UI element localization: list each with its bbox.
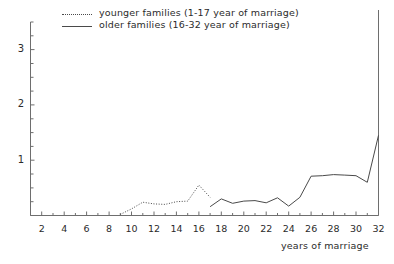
x-tick-label: 4 xyxy=(53,223,75,234)
x-tick-label: 2 xyxy=(31,223,53,234)
x-tick-label: 18 xyxy=(210,223,232,234)
legend-item-younger-families: younger families (1-17 year of marriage) xyxy=(62,7,362,19)
x-tick-label: 6 xyxy=(76,223,98,234)
y-tick-marks xyxy=(31,22,35,216)
x-tick-label: 24 xyxy=(278,223,300,234)
chart-figure: younger families (1-17 year of marriage)… xyxy=(0,0,394,264)
x-tick-label: 22 xyxy=(255,223,277,234)
legend-swatch-solid-icon xyxy=(62,26,92,27)
x-tick-label: 30 xyxy=(345,223,367,234)
x-tick-label: 14 xyxy=(165,223,187,234)
legend-swatch-dotted-icon xyxy=(62,14,92,15)
legend-label-younger-families: younger families (1-17 year of marriage) xyxy=(99,7,299,19)
x-axis-title: years of marriage xyxy=(281,240,369,251)
x-tick-marks xyxy=(31,212,379,216)
x-tick-label: 16 xyxy=(188,223,210,234)
x-tick-label: 28 xyxy=(323,223,345,234)
x-tick-label: 8 xyxy=(98,223,120,234)
x-tick-label: 10 xyxy=(121,223,143,234)
y-tick-label: 1 xyxy=(8,154,24,165)
x-tick-label: 20 xyxy=(233,223,255,234)
legend-label-older-families: older families (16-32 year of marriage) xyxy=(99,19,290,31)
chart-legend: younger families (1-17 year of marriage)… xyxy=(62,7,362,31)
series-line-younger-families xyxy=(120,185,210,214)
legend-item-older-families: older families (16-32 year of marriage) xyxy=(62,19,362,31)
x-tick-label: 12 xyxy=(143,223,165,234)
series-line-older-families xyxy=(210,135,378,206)
y-tick-label: 2 xyxy=(8,98,24,109)
x-tick-label: 32 xyxy=(368,223,390,234)
y-tick-label: 3 xyxy=(8,43,24,54)
x-tick-label: 26 xyxy=(300,223,322,234)
